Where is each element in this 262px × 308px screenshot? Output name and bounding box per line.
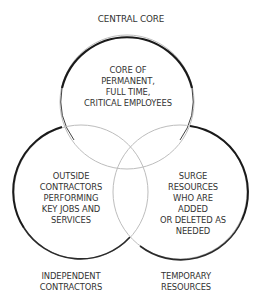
- description-temporary-resources: SURGE RESOURCES WHO ARE ADDED OR DELETED…: [159, 171, 228, 237]
- description-independent-contractors: OUTSIDE CONTRACTORS PERFORMING KEY JOBS …: [40, 171, 102, 226]
- label-independent-contractors: INDEPENDENT CONTRACTORS: [40, 271, 102, 293]
- label-temporary-resources: TEMPORARY RESOURCES: [161, 271, 211, 293]
- venn-diagram: [0, 0, 262, 308]
- description-central-core: CORE OF PERMANENT, FULL TIME, CRITICAL E…: [84, 65, 172, 109]
- label-central-core: CENTRAL CORE: [98, 14, 165, 25]
